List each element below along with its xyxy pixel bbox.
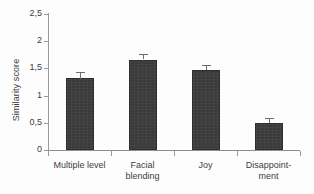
x-tick-mark (237, 151, 238, 156)
error-bar-stem (80, 72, 81, 79)
bar (192, 70, 220, 150)
x-category-label-line: ment (237, 171, 300, 182)
error-bar-cap (265, 118, 274, 119)
x-category-label-line: Joy (198, 160, 212, 170)
bar-chart-figure: Similarity score 00,511,522,5 Multiple l… (0, 0, 314, 194)
x-category-label: Disappoint-ment (237, 160, 300, 182)
x-tick-mark (174, 151, 175, 156)
x-category-label-line: Multiple level (53, 160, 105, 170)
x-category-label-line: blending (111, 171, 174, 182)
error-bar-cap (139, 54, 148, 55)
bar (255, 123, 283, 150)
error-bar-cap (76, 72, 85, 73)
x-category-label: Facialblending (111, 160, 174, 182)
y-tick-label: 2,5 (12, 9, 42, 18)
error-bar-cap (202, 65, 211, 66)
x-tick-mark (48, 151, 49, 156)
y-tick-label: 0,5 (12, 118, 42, 127)
bar (66, 78, 94, 150)
y-tick-label: 2 (12, 36, 42, 45)
x-category-label: Joy (174, 160, 237, 171)
x-category-label-line: Disappoint- (246, 160, 292, 170)
y-tick-label: 1,5 (12, 63, 42, 72)
bar (129, 60, 157, 150)
x-category-label: Multiple level (48, 160, 111, 171)
x-tick-mark (300, 151, 301, 156)
y-tick-label: 0 (12, 145, 42, 154)
x-tick-mark (111, 151, 112, 156)
x-category-label-line: Facial (130, 160, 154, 170)
y-tick-label: 1 (12, 91, 42, 100)
